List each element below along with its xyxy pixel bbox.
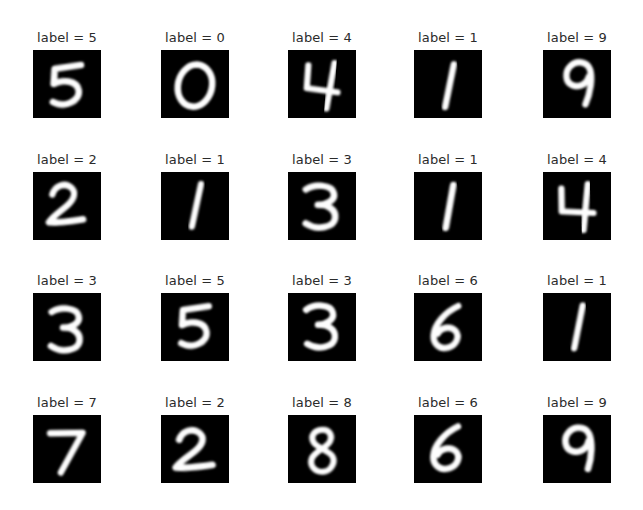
digit-image-3 (414, 50, 482, 118)
digit-cell-8: label = 1 (414, 152, 482, 240)
digit-image-16 (161, 415, 229, 483)
digit-cell-10: label = 3 (33, 273, 101, 361)
digit-cell-11: label = 5 (161, 273, 229, 361)
digit-label-5: label = 2 (33, 152, 101, 167)
digit-label-12: label = 3 (288, 273, 356, 288)
digit-image-10 (33, 293, 101, 361)
digit-label-1: label = 0 (161, 30, 229, 45)
digit-cell-16: label = 2 (161, 395, 229, 483)
digit-image-9 (543, 172, 611, 240)
digit-cell-0: label = 5 (33, 30, 101, 118)
digit-image-17 (288, 415, 356, 483)
digit-image-18 (414, 415, 482, 483)
mnist-digit-grid-figure: label = 5label = 0label = 4label = 1labe… (0, 0, 643, 510)
digit-image-6 (161, 172, 229, 240)
digit-image-14 (543, 293, 611, 361)
digit-label-16: label = 2 (161, 395, 229, 410)
digit-image-15 (33, 415, 101, 483)
digit-image-8 (414, 172, 482, 240)
digit-cell-19: label = 9 (543, 395, 611, 483)
digit-label-11: label = 5 (161, 273, 229, 288)
digit-label-4: label = 9 (543, 30, 611, 45)
digit-cell-3: label = 1 (414, 30, 482, 118)
digit-image-13 (414, 293, 482, 361)
digit-label-13: label = 6 (414, 273, 482, 288)
digit-cell-6: label = 1 (161, 152, 229, 240)
digit-label-14: label = 1 (543, 273, 611, 288)
digit-cell-17: label = 8 (288, 395, 356, 483)
digit-cell-9: label = 4 (543, 152, 611, 240)
digit-label-17: label = 8 (288, 395, 356, 410)
digit-image-2 (288, 50, 356, 118)
digit-image-0 (33, 50, 101, 118)
digit-label-15: label = 7 (33, 395, 101, 410)
digit-image-1 (161, 50, 229, 118)
digit-label-19: label = 9 (543, 395, 611, 410)
digit-cell-12: label = 3 (288, 273, 356, 361)
digit-cell-7: label = 3 (288, 152, 356, 240)
digit-label-10: label = 3 (33, 273, 101, 288)
digit-cell-15: label = 7 (33, 395, 101, 483)
digit-image-5 (33, 172, 101, 240)
digit-label-0: label = 5 (33, 30, 101, 45)
digit-cell-13: label = 6 (414, 273, 482, 361)
digit-cell-18: label = 6 (414, 395, 482, 483)
digit-label-9: label = 4 (543, 152, 611, 167)
digit-image-7 (288, 172, 356, 240)
digit-label-2: label = 4 (288, 30, 356, 45)
digit-label-3: label = 1 (414, 30, 482, 45)
digit-image-4 (543, 50, 611, 118)
digit-image-12 (288, 293, 356, 361)
digit-label-7: label = 3 (288, 152, 356, 167)
digit-cell-5: label = 2 (33, 152, 101, 240)
digit-cell-1: label = 0 (161, 30, 229, 118)
digit-cell-2: label = 4 (288, 30, 356, 118)
digit-cell-14: label = 1 (543, 273, 611, 361)
digit-image-19 (543, 415, 611, 483)
digit-image-11 (161, 293, 229, 361)
digit-cell-4: label = 9 (543, 30, 611, 118)
digit-label-6: label = 1 (161, 152, 229, 167)
digit-label-18: label = 6 (414, 395, 482, 410)
digit-label-8: label = 1 (414, 152, 482, 167)
